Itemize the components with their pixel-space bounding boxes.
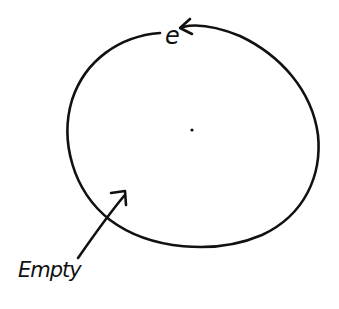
loop-curve bbox=[68, 26, 319, 247]
empty-label: Empty bbox=[18, 258, 81, 282]
center-dot bbox=[190, 128, 193, 131]
pointer-arrow-shaft bbox=[78, 196, 124, 258]
loop-label-e: e bbox=[165, 22, 180, 50]
